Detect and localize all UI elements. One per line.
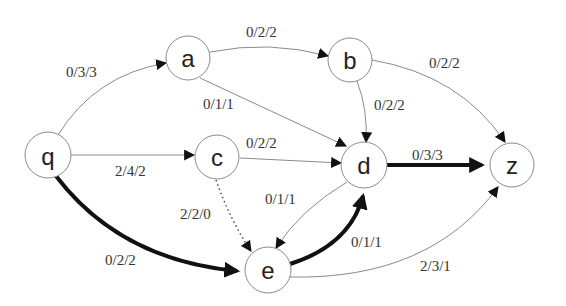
node-d-label: d [357, 152, 370, 179]
edge-label-q-a: 0/3/3 [66, 64, 97, 80]
node-e: e [245, 247, 291, 293]
edge-label-b-d: 0/2/2 [374, 97, 405, 113]
edge-label-b-z: 0/2/2 [429, 55, 460, 71]
edge-label-q-c: 2/4/2 [115, 163, 146, 179]
edge-b-d [357, 81, 366, 142]
node-a: a [166, 36, 210, 80]
edge-e-d [290, 196, 363, 264]
node-q: q [25, 132, 71, 178]
node-c-label: c [211, 144, 223, 171]
edge-label-a-d: 0/1/1 [203, 96, 234, 112]
node-q-label: q [41, 143, 54, 170]
edge-c-d [240, 158, 341, 163]
edge-label-q-e: 0/2/2 [105, 252, 136, 268]
node-a-label: a [181, 45, 195, 72]
node-e-label: e [261, 257, 274, 284]
node-b-label: b [343, 47, 356, 74]
edge-label-c-e: 2/2/0 [180, 206, 211, 222]
edge-label-d-e: 0/1/1 [265, 191, 296, 207]
edge-label-d-z: 0/3/3 [412, 147, 443, 163]
node-z-label: z [506, 152, 518, 179]
node-z: z [490, 143, 534, 187]
edge-label-e-d: 0/1/1 [351, 234, 382, 250]
edge-a-b [210, 47, 328, 56]
edge-c-e [216, 180, 251, 251]
edge-e-z [290, 187, 498, 277]
flow-network-diagram: 0/3/3 0/2/2 0/1/1 0/2/2 0/2/2 2/4/2 0/2/… [0, 0, 566, 306]
edge-label-c-d: 0/2/2 [246, 135, 277, 151]
edge-label-a-b: 0/2/2 [246, 24, 277, 40]
edge-q-e [56, 176, 237, 271]
node-b: b [328, 38, 372, 82]
node-c: c [195, 135, 239, 179]
node-d: d [341, 142, 387, 188]
edge-label-e-z: 2/3/1 [420, 258, 451, 274]
